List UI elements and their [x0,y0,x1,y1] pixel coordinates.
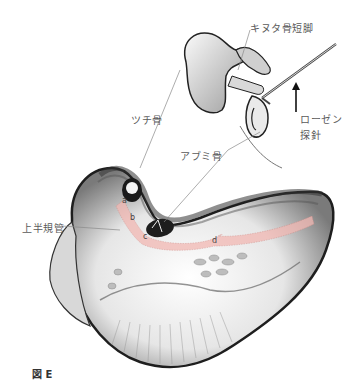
canal-letter-c: c [143,232,147,241]
figure-caption: 図 E [32,366,52,381]
rosen-probe [262,44,336,104]
label-superior-semicircular-canal: 上半規管 [22,220,64,235]
canal-letter-a: a [122,196,127,205]
label-incus-short-process: キヌタ骨短脚 [250,20,313,35]
label-rosen-probe-line1: ローゼン [300,111,342,126]
label-stapes: アブミ骨 [180,148,222,163]
label-rosen-probe-line2: 探針 [300,127,321,142]
anatomical-illustration [0,0,349,384]
canal-letter-d: d [212,236,217,245]
canal-letter-b: b [130,213,135,222]
arrow-icon [292,82,300,112]
temporal-bone [50,168,334,367]
label-malleus: ツチ骨 [131,112,163,127]
